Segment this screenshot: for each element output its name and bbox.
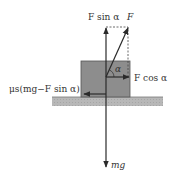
label-f: F: [126, 12, 134, 22]
ground-surface: [52, 97, 163, 106]
label-f-cos: F cos α: [134, 73, 167, 83]
label-mg: mg: [111, 160, 126, 170]
label-f-sin: F sin α: [88, 12, 119, 22]
label-friction: μs(mg−F sin α): [9, 84, 80, 94]
force-diagram: F sin α F α F cos α μs(mg−F sin α) mg: [0, 0, 175, 177]
label-alpha: α: [115, 64, 121, 74]
